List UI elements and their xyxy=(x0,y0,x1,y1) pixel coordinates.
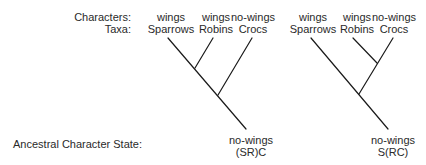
tree-1-sparrows-branch xyxy=(168,38,246,129)
tree-2-robins-branch xyxy=(353,38,377,63)
tree-1-robins-branch xyxy=(195,38,213,68)
tree-2-sparrows-branch xyxy=(311,38,388,129)
tree-2-crocs-branch xyxy=(359,38,393,94)
cladogram-branches xyxy=(0,0,426,165)
tree-1-crocs-branch xyxy=(218,38,252,95)
